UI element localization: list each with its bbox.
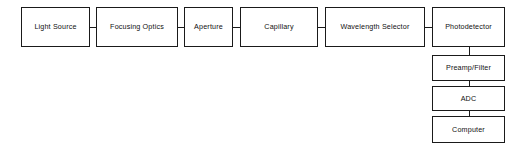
node-label-light-source: Light Source — [34, 23, 76, 31]
node-label-photodetector: Photodetector — [445, 23, 492, 31]
node-label-focusing-optics: Focusing Optics — [110, 23, 164, 31]
node-label-wavelength-selector: Wavelength Selector — [341, 23, 410, 31]
block-diagram-canvas: Light SourceFocusing OpticsApertureCapil… — [0, 0, 525, 151]
node-label-aperture: Aperture — [194, 23, 223, 31]
node-label-adc: ADC — [461, 95, 477, 103]
node-preamp-filter[interactable]: Preamp/Filter — [432, 55, 505, 81]
node-label-computer: Computer — [452, 126, 485, 134]
node-adc[interactable]: ADC — [432, 86, 505, 111]
connector-wavelength-selector-to-photodetector — [425, 27, 432, 28]
connector-adc-to-computer — [469, 111, 470, 116]
node-focusing-optics[interactable]: Focusing Optics — [96, 7, 178, 47]
connector-photodetector-to-preamp-filter — [469, 47, 470, 55]
connector-aperture-to-capillary — [233, 27, 240, 28]
node-computer[interactable]: Computer — [432, 116, 505, 143]
connector-focusing-optics-to-aperture — [178, 27, 184, 28]
node-capillary[interactable]: Capillary — [240, 7, 318, 47]
node-photodetector[interactable]: Photodetector — [432, 7, 505, 47]
node-label-capillary: Capillary — [264, 23, 293, 31]
node-wavelength-selector[interactable]: Wavelength Selector — [325, 7, 425, 47]
node-label-preamp-filter: Preamp/Filter — [446, 64, 491, 72]
node-aperture[interactable]: Aperture — [184, 7, 233, 47]
node-light-source[interactable]: Light Source — [21, 7, 90, 47]
connector-capillary-to-wavelength-selector — [318, 27, 325, 28]
connector-preamp-filter-to-adc — [469, 81, 470, 86]
connector-light-source-to-focusing-optics — [90, 27, 96, 28]
